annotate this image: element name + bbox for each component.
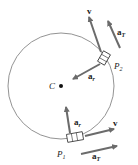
tangential-accel-label-p1: aT	[92, 151, 101, 162]
radial-accel-arrow-p2	[73, 64, 100, 79]
radial-accel-label-p2: ar	[88, 71, 96, 82]
center-label: C	[49, 81, 56, 91]
radial-accel-arrow-p1	[66, 107, 70, 133]
point-label-p2: P2	[113, 61, 123, 72]
velocity-label-p2: v	[87, 6, 92, 16]
tangential-accel-arrow-p1	[81, 146, 117, 154]
velocity-label-p1: v	[113, 118, 118, 128]
center-point	[59, 84, 63, 88]
tangential-accel-label-p2: aT	[117, 27, 126, 38]
car-p1	[66, 132, 83, 143]
circular-motion-diagram: C v aT ar P2 ar v aT P1	[0, 0, 138, 165]
point-label-p1: P1	[56, 149, 66, 160]
radial-accel-label-p1: ar	[74, 117, 82, 128]
velocity-arrow-p2	[89, 17, 101, 52]
velocity-arrow-p1	[85, 129, 114, 136]
